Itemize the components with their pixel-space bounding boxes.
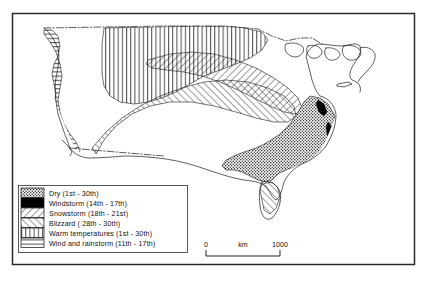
- scale-bar: 0 km 1000: [204, 241, 288, 256]
- legend-label-dry: Dry (1st - 30th): [49, 190, 99, 198]
- legend-swatch-wind-and-rainstorm: [21, 238, 44, 248]
- legend-label-windstorm: Windstorm (14th - 17th): [49, 200, 127, 208]
- region-windstorm-south: [327, 146, 334, 158]
- southern-border: [70, 148, 164, 156]
- scale-unit-label: km: [238, 241, 248, 249]
- legend-swatch-dry: [21, 188, 44, 198]
- scale-max-label: 1000: [272, 241, 288, 249]
- legend-label-warm-temperatures: Warm temperatures (1st - 30th): [49, 230, 152, 238]
- legend-label-blizzard: Blizzard ( 28th - 30th): [49, 220, 120, 228]
- legend-swatch-blizzard: [21, 218, 44, 228]
- legend-swatch-warm-temperatures: [21, 228, 44, 238]
- great-lakes: [285, 43, 361, 60]
- map-canvas: Dry (1st - 30th) Windstorm (14th - 17th)…: [0, 0, 429, 281]
- weather-map-figure: Dry (1st - 30th) Windstorm (14th - 17th)…: [0, 0, 429, 281]
- scale-bar-rule: [206, 250, 280, 256]
- weather-regions: [44, 26, 336, 182]
- legend-swatch-snowstorm: [21, 208, 44, 218]
- legend-label-snowstorm: Snowstorm (18th - 21st): [49, 210, 128, 218]
- region-wind-and-rainstorm: [44, 30, 80, 157]
- long-island: [337, 82, 352, 87]
- scale-min-label: 0: [204, 241, 208, 249]
- legend-swatch-windstorm: [21, 198, 44, 208]
- legend-label-wind-and-rainstorm: Wind and rainstorm (11th - 17th): [49, 240, 155, 248]
- legend: Dry (1st - 30th) Windstorm (14th - 17th)…: [19, 186, 188, 253]
